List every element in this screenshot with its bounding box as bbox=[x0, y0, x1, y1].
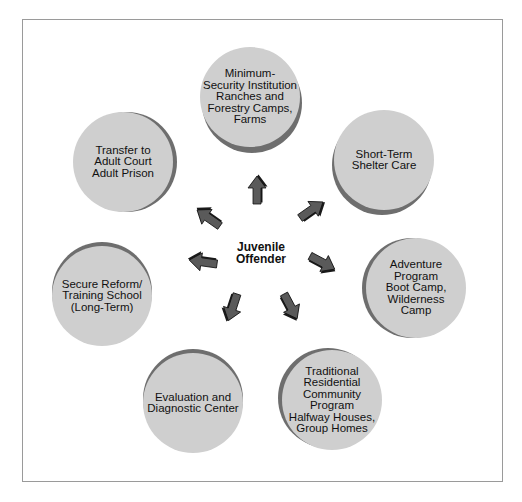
center-label-juvenile-offender: Juvenile Offender bbox=[226, 241, 296, 265]
node-label: Adventure Program Boot Camp, Wilderness … bbox=[366, 238, 466, 338]
arrow-up-icon bbox=[248, 175, 268, 205]
node-label: Short-Term Shelter Care bbox=[334, 110, 434, 210]
arrow-right-icon bbox=[305, 248, 340, 279]
node-traditional-residential: Traditional Residential Community Progra… bbox=[282, 350, 382, 450]
node-label: Minimum- Security Institution Ranches an… bbox=[200, 47, 300, 147]
arrow-lower-right-icon bbox=[275, 290, 306, 325]
node-minimum-security: Minimum- Security Institution Ranches an… bbox=[200, 47, 300, 147]
node-transfer-adult: Transfer to Adult Court Adult Prison bbox=[73, 112, 173, 212]
node-label: Transfer to Adult Court Adult Prison bbox=[73, 112, 173, 212]
node-short-term: Short-Term Shelter Care bbox=[334, 110, 434, 210]
arrow-left-icon bbox=[187, 249, 219, 272]
node-evaluation: Evaluation and Diagnostic Center bbox=[143, 353, 243, 453]
node-label: Evaluation and Diagnostic Center bbox=[143, 353, 243, 453]
arrow-upper-left-icon bbox=[191, 200, 226, 233]
arrow-upper-right-icon bbox=[295, 194, 330, 227]
node-secure-reform: Secure Reform/ Training School (Long-Ter… bbox=[52, 246, 152, 346]
node-label: Traditional Residential Community Progra… bbox=[282, 350, 382, 450]
node-label: Secure Reform/ Training School (Long-Ter… bbox=[52, 246, 152, 346]
arrow-lower-left-icon bbox=[218, 291, 246, 325]
node-adventure: Adventure Program Boot Camp, Wilderness … bbox=[366, 238, 466, 338]
